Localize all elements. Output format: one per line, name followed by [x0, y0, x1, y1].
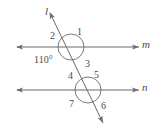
- label-line-l: l: [45, 6, 48, 17]
- angle-label-3: 3: [85, 59, 90, 69]
- angle-label-6: 6: [101, 101, 106, 111]
- angle-label-4: 4: [68, 71, 73, 81]
- angle-measure-110: 110°: [34, 55, 53, 65]
- angle-label-1: 1: [77, 27, 82, 37]
- label-line-n: n: [142, 82, 148, 93]
- geometry-diagram: l m n 1 2 110° 3 4 5 7 6: [0, 0, 157, 137]
- diagram-canvas: [0, 0, 157, 137]
- label-line-m: m: [142, 39, 150, 50]
- angle-label-5: 5: [94, 70, 99, 80]
- angle-label-2: 2: [50, 31, 55, 41]
- angle-label-7: 7: [69, 99, 74, 109]
